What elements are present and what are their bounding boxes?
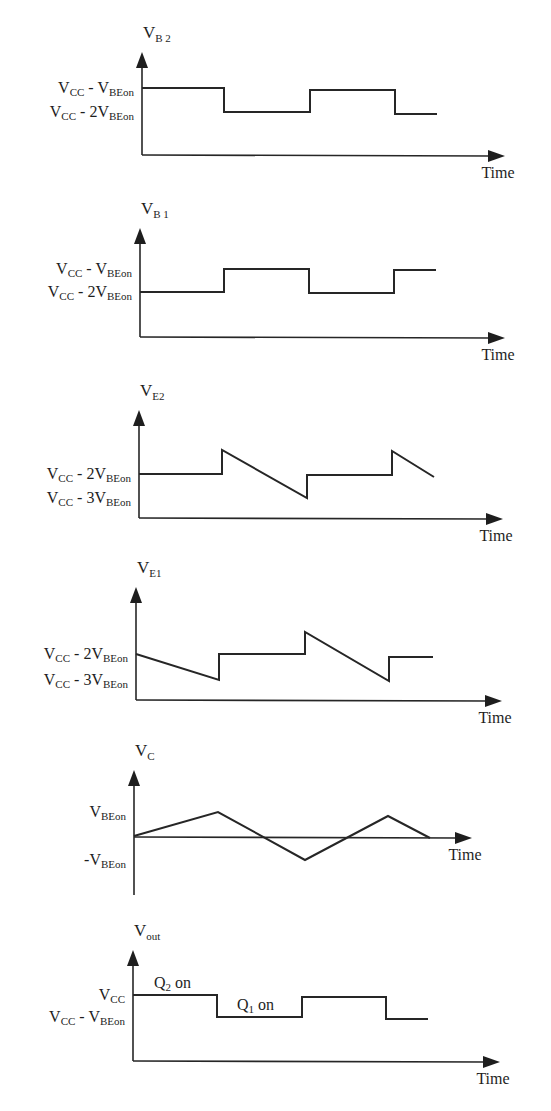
panel-title: VB 2 [143, 23, 171, 44]
y-axis-arrow-icon [127, 950, 139, 966]
time-axis-label: Time [476, 1070, 509, 1087]
y-axis-arrow-icon [128, 770, 140, 786]
waveform-ve1 [136, 632, 433, 681]
time-axis-arrow-icon [488, 332, 505, 344]
panel-vb2: VB 2TimeVCC - VBEonVCC - 2VBEon [50, 23, 515, 181]
state-annotation: Q2 on [154, 974, 191, 993]
y-level-label: VCC - 3VBEon [47, 489, 132, 508]
panel-title: VE1 [137, 558, 162, 579]
waveform-ve2 [139, 450, 434, 498]
time-axis [136, 700, 488, 701]
time-axis [134, 837, 458, 838]
y-level-label: VCC - 2VBEon [47, 465, 132, 484]
waveform-diagram: VB 2TimeVCC - VBEonVCC - 2VBEonVB 1TimeV… [0, 0, 551, 1111]
time-axis [142, 155, 491, 156]
panel-ve2: VE2TimeVCC - 2VBEonVCC - 3VBEon [47, 381, 513, 544]
y-axis-arrow-icon [130, 587, 142, 603]
y-level-label: VCC [99, 986, 125, 1005]
y-level-label: VCC - 2VBEon [50, 103, 135, 122]
time-axis [140, 337, 491, 338]
panel-title: VB 1 [141, 199, 169, 220]
waveform-vb2 [142, 88, 437, 114]
time-axis [133, 1061, 486, 1062]
time-axis-label: Time [481, 346, 514, 363]
y-level-label: VCC - VBEon [49, 1008, 125, 1027]
y-level-label: VCC - 3VBEon [44, 671, 129, 690]
time-axis-arrow-icon [488, 150, 505, 162]
time-axis-arrow-icon [483, 1056, 500, 1068]
y-axis-arrow-icon [136, 52, 148, 68]
panel-title: VC [135, 741, 155, 762]
time-axis-label: Time [481, 164, 514, 181]
time-axis [139, 518, 489, 519]
waveform-vout [133, 995, 428, 1019]
time-axis-arrow-icon [486, 513, 503, 525]
panel-title: Vout [134, 921, 160, 942]
time-axis-arrow-icon [485, 695, 502, 707]
time-axis-label: Time [448, 846, 481, 863]
panel-vb1: VB 1TimeVCC - VBEonVCC - 2VBEon [48, 199, 515, 363]
state-annotation: Q1 on [237, 996, 274, 1015]
y-level-label: -VBEon [84, 851, 126, 870]
panel-vc: VCTimeVBEon-VBEon [84, 741, 482, 895]
y-level-label: VCC - 2VBEon [44, 645, 129, 664]
panel-ve1: VE1TimeVCC - 2VBEonVCC - 3VBEon [44, 558, 512, 726]
panel-title: VE2 [140, 381, 165, 402]
panel-vout: VoutTimeVCCVCC - VBEonQ2 onQ1 on [49, 921, 510, 1087]
y-level-label: VCC - VBEon [56, 260, 132, 279]
y-level-label: VBEon [89, 803, 126, 822]
time-axis-label: Time [478, 709, 511, 726]
time-axis-label: Time [479, 527, 512, 544]
y-axis-arrow-icon [133, 410, 145, 426]
waveform-vc [134, 812, 430, 860]
y-level-label: VCC - 2VBEon [48, 283, 133, 302]
y-level-label: VCC - VBEon [58, 79, 134, 98]
waveform-vb1 [140, 269, 436, 293]
y-axis-arrow-icon [134, 228, 146, 244]
time-axis-arrow-icon [455, 832, 472, 844]
